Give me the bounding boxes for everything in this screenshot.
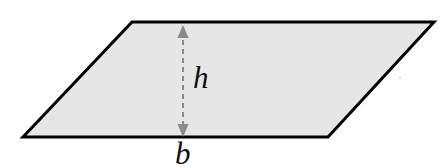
geometry-figure-canvas: h b [0, 0, 446, 168]
base-label: b [175, 138, 191, 168]
parallelogram-shape [23, 22, 434, 137]
parallelogram-diagram-svg [0, 0, 446, 168]
height-label: h [193, 62, 209, 93]
stray-speck [399, 77, 401, 79]
